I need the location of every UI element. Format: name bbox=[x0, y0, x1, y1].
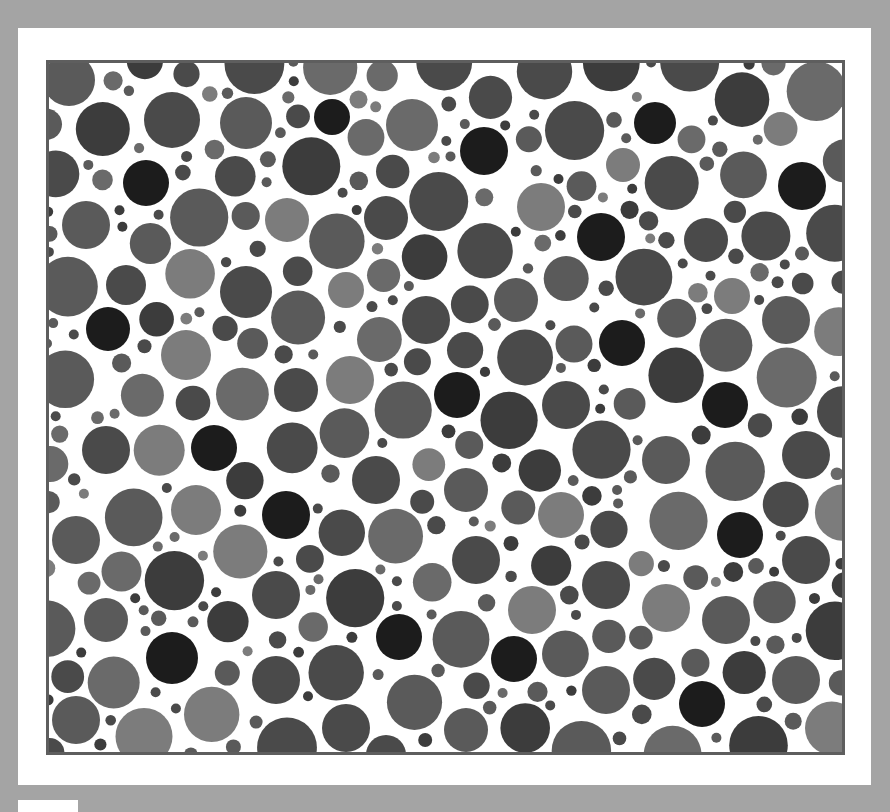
dot bbox=[634, 102, 676, 144]
dot bbox=[328, 272, 364, 308]
dot bbox=[320, 408, 370, 458]
dot bbox=[82, 426, 130, 474]
dot bbox=[376, 155, 409, 188]
dot bbox=[728, 249, 743, 264]
dot bbox=[105, 489, 163, 547]
dot bbox=[582, 486, 602, 506]
dot bbox=[572, 421, 630, 479]
dot bbox=[299, 612, 328, 641]
dot bbox=[497, 330, 553, 386]
dot bbox=[352, 205, 362, 215]
dot bbox=[684, 218, 728, 262]
dot bbox=[633, 435, 643, 445]
dot bbox=[274, 368, 318, 412]
dot bbox=[590, 511, 627, 548]
dot bbox=[76, 648, 86, 658]
dot bbox=[181, 151, 192, 162]
dot bbox=[517, 63, 572, 99]
dot bbox=[787, 63, 842, 121]
dot bbox=[678, 126, 706, 154]
dot bbox=[699, 319, 752, 372]
dot bbox=[121, 374, 164, 417]
dot bbox=[460, 127, 508, 175]
dot bbox=[49, 738, 64, 752]
dot bbox=[441, 97, 456, 112]
dot bbox=[194, 307, 204, 317]
dot bbox=[269, 631, 286, 648]
dot bbox=[123, 160, 169, 206]
dot bbox=[308, 350, 318, 360]
dot bbox=[286, 104, 310, 128]
dot bbox=[723, 562, 743, 582]
dot bbox=[313, 504, 323, 514]
dot bbox=[635, 308, 645, 318]
dot bbox=[505, 571, 516, 582]
dot bbox=[729, 716, 788, 752]
dot bbox=[679, 681, 725, 727]
dot bbox=[566, 685, 576, 695]
dot bbox=[763, 481, 809, 527]
dot bbox=[170, 188, 228, 246]
dot bbox=[220, 97, 272, 149]
dot bbox=[723, 651, 766, 694]
dot bbox=[791, 409, 808, 426]
dot bbox=[817, 386, 842, 438]
dot bbox=[257, 718, 317, 753]
dot bbox=[567, 171, 597, 201]
dot bbox=[683, 565, 708, 590]
dot bbox=[720, 151, 767, 198]
dot bbox=[702, 596, 750, 644]
dot bbox=[599, 281, 614, 296]
dot bbox=[104, 71, 123, 90]
dot bbox=[660, 63, 719, 92]
dot bbox=[582, 666, 630, 714]
dot bbox=[545, 320, 555, 330]
dot bbox=[141, 626, 151, 636]
dot bbox=[346, 632, 357, 643]
dot bbox=[49, 351, 94, 409]
dot bbox=[460, 119, 470, 129]
dot bbox=[146, 632, 198, 684]
dot bbox=[711, 733, 721, 743]
dot bbox=[402, 296, 450, 344]
dot bbox=[367, 63, 398, 91]
dot bbox=[554, 174, 564, 184]
dot bbox=[613, 498, 623, 508]
dot bbox=[780, 259, 790, 269]
dot bbox=[657, 299, 696, 338]
dot bbox=[702, 382, 748, 428]
dot bbox=[517, 183, 565, 231]
dot bbox=[338, 188, 348, 198]
dot bbox=[392, 601, 402, 611]
dot bbox=[806, 205, 842, 262]
dot bbox=[314, 574, 324, 584]
dot bbox=[645, 234, 655, 244]
dot bbox=[49, 151, 79, 198]
dot bbox=[795, 247, 809, 261]
dot bbox=[599, 320, 645, 366]
dot bbox=[213, 316, 238, 341]
dot bbox=[469, 517, 479, 527]
dot bbox=[750, 263, 768, 281]
dot bbox=[782, 536, 830, 584]
dot bbox=[823, 140, 842, 183]
dot bbox=[806, 602, 842, 660]
dot bbox=[501, 491, 535, 525]
dot bbox=[748, 413, 772, 437]
dot bbox=[588, 359, 601, 372]
dot bbox=[49, 601, 75, 657]
dot bbox=[642, 436, 690, 484]
dot bbox=[711, 577, 721, 587]
dot bbox=[373, 669, 384, 680]
dot bbox=[62, 201, 110, 249]
dot bbox=[568, 475, 579, 486]
dot bbox=[621, 201, 639, 219]
dot bbox=[175, 165, 191, 181]
dot bbox=[658, 560, 670, 572]
dot bbox=[480, 367, 490, 377]
dot bbox=[198, 551, 208, 561]
dot bbox=[409, 172, 468, 231]
dot bbox=[216, 368, 269, 421]
dot bbox=[171, 704, 181, 714]
dot bbox=[293, 647, 304, 658]
